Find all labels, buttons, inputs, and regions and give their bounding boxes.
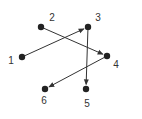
point-label-2: 2 [49, 12, 55, 23]
point-4 [104, 53, 110, 59]
point-label-3: 3 [95, 12, 101, 23]
point-label-6: 6 [41, 95, 47, 106]
point-label-4: 4 [113, 59, 119, 70]
point-1 [19, 54, 25, 60]
label-layer: 123456 [8, 12, 119, 109]
point-5 [83, 86, 89, 92]
edge-layer [25, 28, 104, 87]
point-label-1: 1 [8, 55, 14, 66]
point-2 [38, 24, 44, 30]
arrow-2-to-4 [44, 28, 103, 54]
point-3 [85, 24, 91, 30]
point-label-5: 5 [84, 98, 90, 109]
arrow-3-to-5 [86, 30, 88, 84]
node-layer [19, 24, 110, 92]
arrow-4-to-6 [49, 58, 104, 87]
point-arrow-diagram: 123456 [0, 0, 142, 119]
point-6 [42, 86, 48, 92]
